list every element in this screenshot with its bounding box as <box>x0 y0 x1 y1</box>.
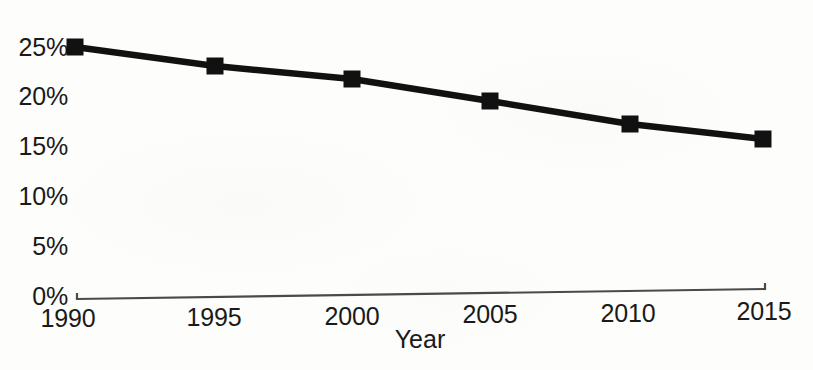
x-axis-tick-label: 1990 <box>41 306 96 331</box>
x-axis-tick-label: 2005 <box>463 302 518 327</box>
x-axis-tick-label: 2000 <box>325 304 380 329</box>
x-axis-title: Year <box>395 327 446 352</box>
x-axis-tick-label: 2015 <box>737 299 792 324</box>
data-point-marker <box>755 131 772 148</box>
line-chart: 25% 20% 15% 10% 5% 0% 1990 1995 2000 200… <box>0 0 813 370</box>
data-point-marker <box>622 116 639 133</box>
plot-area <box>0 0 813 370</box>
x-axis-line <box>77 283 765 299</box>
data-point-marker <box>207 58 224 75</box>
data-point-marker <box>67 39 84 56</box>
x-axis-tick-label: 2010 <box>601 301 656 326</box>
data-point-marker <box>482 93 499 110</box>
series-line <box>75 47 763 139</box>
x-axis-tick-label: 1995 <box>187 305 242 330</box>
data-point-marker <box>344 71 361 88</box>
